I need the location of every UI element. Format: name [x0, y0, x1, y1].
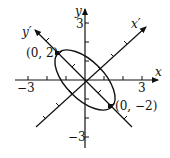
point-0-2: (0, 2) [26, 46, 59, 60]
x-tick-pos3: 3 [138, 81, 146, 95]
y-axis: y 3 −3 [68, 4, 89, 148]
point-label: (0, 2) [26, 46, 58, 60]
ellipse-diagram: x −3 3 y 3 −3 [0, 0, 170, 158]
y-prime-label: y′ [21, 25, 32, 39]
y-axis-label: y [74, 4, 82, 18]
point-marker [108, 104, 112, 108]
x-axis-label: x [155, 65, 162, 79]
point-label: (0, −2) [115, 99, 157, 113]
point-0-neg2: (0, −2) [108, 99, 157, 113]
y-tick-pos3: 3 [76, 17, 84, 31]
x-tick-neg3: −3 [17, 81, 35, 95]
x-prime-label: x′ [131, 17, 141, 31]
y-tick-neg3: −3 [68, 130, 86, 144]
